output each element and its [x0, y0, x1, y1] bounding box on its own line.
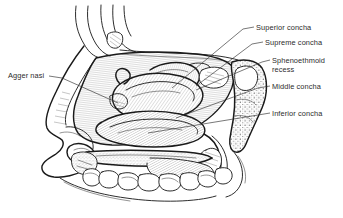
label-superior-concha: Superior concha	[256, 23, 312, 32]
nasal-cavity-illustration: Agger nasi Superior concha Supreme conch…	[0, 0, 343, 218]
label-inferior-concha: Inferior concha	[272, 109, 323, 118]
label-agger-nasi: Agger nasi	[8, 71, 45, 80]
frontal-sinus	[107, 32, 123, 48]
label-middle-concha: Middle concha	[272, 82, 322, 91]
sphenoid-pterygoid-bone	[230, 60, 267, 152]
sphenoethmoid-recess	[199, 67, 228, 88]
label-sphenoethmoid-recess: Sphenoethmoid	[272, 56, 325, 65]
label-supreme-concha: Supreme concha	[265, 38, 323, 47]
forehead-contour-group	[75, 5, 136, 57]
label-sphenoethmoid-recess-line2: recess	[272, 65, 295, 74]
anatomical-figure: Agger nasi Superior concha Supreme conch…	[0, 0, 343, 218]
inferior-concha	[96, 111, 205, 147]
